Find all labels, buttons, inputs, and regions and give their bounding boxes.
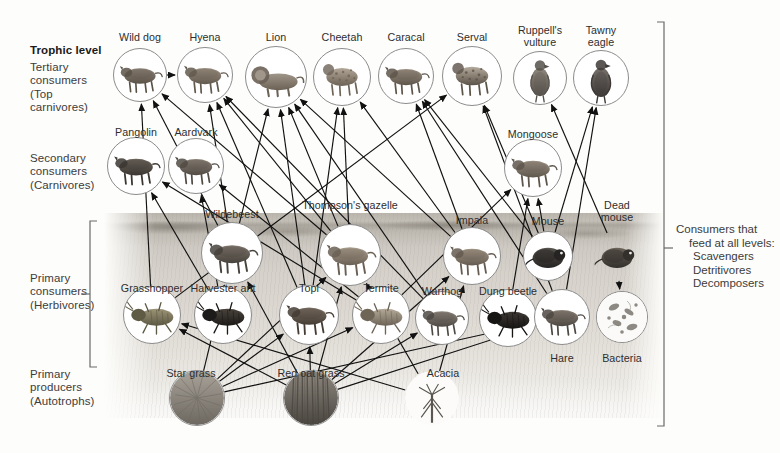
organism-label-line: mouse xyxy=(601,211,633,223)
organism-hare[interactable] xyxy=(534,289,590,345)
all-levels-note: Consumers that feed at all levels: Scave… xyxy=(676,223,775,291)
organism-art-warthog xyxy=(416,292,468,344)
bracket-primary-consumers xyxy=(80,218,104,370)
organism-label-acacia: Acacia xyxy=(427,367,459,379)
organism-art-caracal xyxy=(379,49,433,103)
organism-label-cheetah: Cheetah xyxy=(322,31,363,43)
arrow-deadmouse-to-bacteria xyxy=(619,281,620,289)
organism-serval[interactable] xyxy=(442,46,502,106)
organism-label-lion: Lion xyxy=(266,31,286,43)
organism-art-dungbeetle xyxy=(480,290,536,346)
organism-wildebeest[interactable] xyxy=(201,222,263,284)
organism-eagle[interactable] xyxy=(573,50,629,106)
organism-mongoose[interactable] xyxy=(504,139,562,197)
organism-art-mouse xyxy=(524,232,572,280)
organism-label-bacteria: Bacteria xyxy=(602,352,642,364)
organism-label-line: eagle xyxy=(588,36,614,48)
organism-grasshopper[interactable] xyxy=(123,286,181,344)
organism-label-stargrass: Star grass xyxy=(166,367,215,379)
organism-label-warthog: Warthog xyxy=(422,285,462,297)
organism-art-cheetah xyxy=(314,49,370,105)
organism-art-lion xyxy=(246,47,306,107)
organism-label-wildebeest: Wildebeest xyxy=(205,208,258,220)
organism-art-ant xyxy=(195,287,251,343)
organism-label-eagle: Tawnyeagle xyxy=(586,24,617,48)
organism-art-wildebeest xyxy=(202,223,262,283)
organism-termite[interactable] xyxy=(352,286,410,344)
organism-caracal[interactable] xyxy=(378,48,434,104)
organism-hyena[interactable] xyxy=(177,47,233,103)
page-title: Trophic level xyxy=(30,44,102,57)
organism-label-vulture: Ruppell'svulture xyxy=(518,24,562,48)
organism-label-termite: Termite xyxy=(363,282,398,294)
organism-art-grasshopper xyxy=(124,287,180,343)
organism-impala[interactable] xyxy=(443,227,501,285)
organism-label-grasshopper: Grasshopper xyxy=(121,282,183,294)
arrow-ant-to-pangolin xyxy=(152,193,209,290)
level-label-tertiary: Tertiary consumers (Top carnivores) xyxy=(30,61,88,115)
organism-label-ant: Harvester ant xyxy=(191,282,256,294)
organism-art-aardvark xyxy=(169,139,223,193)
organism-art-pangolin xyxy=(108,138,164,194)
organism-art-wilddog xyxy=(114,49,166,101)
food-web-diagram: Trophic level Tertiary consumers (Top ca… xyxy=(0,0,780,453)
organism-lion[interactable] xyxy=(245,46,307,108)
organism-art-gazelle xyxy=(320,225,380,285)
organism-art-topi xyxy=(280,286,338,344)
organism-art-serval xyxy=(443,47,501,105)
organism-pangolin[interactable] xyxy=(107,137,165,195)
organism-label-dungbeetle: Dung beetle xyxy=(479,285,537,297)
organism-art-impala xyxy=(444,228,500,284)
organism-warthog[interactable] xyxy=(415,291,469,345)
organism-label-line: Tawny xyxy=(586,24,617,36)
organism-label-wilddog: Wild dog xyxy=(119,31,161,43)
organism-art-vulture xyxy=(514,52,566,104)
organism-label-mouse: Mouse xyxy=(532,215,564,227)
organism-label-pangolin: Pangolin xyxy=(115,126,157,138)
organism-label-mongoose: Mongoose xyxy=(508,128,558,140)
organism-label-gazelle: Thompson's gazelle xyxy=(302,199,398,211)
organism-label-deadmouse: Deadmouse xyxy=(601,199,633,223)
organism-art-hare xyxy=(535,290,589,344)
organism-label-redoat: Red oat grass xyxy=(277,367,344,379)
organism-label-hare: Hare xyxy=(550,352,573,364)
organism-label-hyena: Hyena xyxy=(189,31,220,43)
organism-art-termite xyxy=(353,287,409,343)
organism-label-aardvark: Aardvark xyxy=(174,126,217,138)
level-label-secondary: Secondary consumers (Carnivores) xyxy=(30,152,94,192)
organism-aardvark[interactable] xyxy=(168,138,224,194)
organism-art-bacteria xyxy=(597,292,647,342)
organism-ant[interactable] xyxy=(194,286,252,344)
arrow-wildebeest-to-lion xyxy=(240,109,269,223)
organism-mouse[interactable] xyxy=(523,231,573,281)
organism-deadmouse[interactable] xyxy=(593,232,641,280)
organism-art-eagle xyxy=(574,51,628,105)
level-label-primary-producers: Primary producers (Autotrophs) xyxy=(30,368,94,408)
organism-label-line: Dead xyxy=(604,199,630,211)
organism-label-line: Ruppell's xyxy=(518,24,562,36)
organism-art-mongoose xyxy=(505,140,561,196)
organism-label-line: vulture xyxy=(524,36,556,48)
organism-label-serval: Serval xyxy=(457,31,488,43)
organism-wilddog[interactable] xyxy=(113,48,167,102)
organism-gazelle[interactable] xyxy=(319,224,381,286)
organism-art-deadmouse xyxy=(593,232,641,280)
organism-art-hyena xyxy=(178,48,232,102)
organism-label-impala: Impala xyxy=(456,214,488,226)
organism-label-topi: Topi xyxy=(299,282,319,294)
organism-label-caracal: Caracal xyxy=(387,31,424,43)
organism-bacteria[interactable] xyxy=(596,291,648,343)
organism-dungbeetle[interactable] xyxy=(479,289,537,347)
organism-vulture[interactable] xyxy=(513,51,567,105)
organism-cheetah[interactable] xyxy=(313,48,371,106)
